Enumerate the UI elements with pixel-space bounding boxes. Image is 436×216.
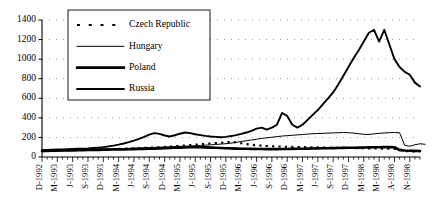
- x-axis-tick-label: M-1994: [111, 163, 121, 191]
- x-axis-tick-label: S-1997: [325, 163, 335, 189]
- x-axis-tick-label: M-1998: [356, 164, 366, 192]
- x-axis-tick-label: M-1996: [233, 163, 243, 191]
- x-axis-tick-label: D-1992: [34, 164, 44, 190]
- legend-label-russia: Russia: [129, 82, 155, 93]
- legend-label-czech-republic: Czech Republic: [129, 18, 190, 29]
- x-axis-tick-label: M-1995: [172, 164, 182, 192]
- line-chart: 0200400600800100012001400D-1992M-1993J-1…: [0, 0, 436, 216]
- x-axis-tick-label: S-1995: [203, 164, 213, 189]
- y-axis-tick-label: 1400: [17, 14, 36, 24]
- legend-label-poland: Poland: [129, 61, 156, 72]
- x-axis-tick-label: D-1995: [218, 164, 228, 190]
- x-axis-tick-label: S-1994: [141, 163, 151, 189]
- x-axis-tick-label: J-1996: [249, 163, 259, 187]
- y-axis-tick-label: 0: [31, 151, 36, 161]
- x-axis-tick-label: J-1995: [187, 164, 197, 187]
- x-axis-tick-label: D-1993: [95, 164, 105, 190]
- x-axis-tick-label: A-1998: [386, 164, 396, 190]
- x-axis-tick-label: D-1994: [157, 163, 167, 190]
- y-axis-tick-label: 1200: [17, 34, 36, 44]
- x-axis-tick-label: J-1993: [65, 164, 75, 187]
- x-axis-tick-label: S-1993: [80, 164, 90, 189]
- x-axis-tick-label: J-1994: [126, 163, 136, 187]
- legend-label-hungary: Hungary: [129, 40, 163, 51]
- x-axis-tick-label: D-1997: [340, 163, 350, 190]
- x-axis-tick-label: J-1997: [310, 163, 320, 187]
- x-axis-tick-label: M-1993: [49, 164, 59, 192]
- y-axis-tick-label: 1000: [17, 53, 36, 63]
- x-axis-tick-label: D-1996: [279, 163, 289, 190]
- x-axis-tick-label: N-1998: [402, 164, 412, 190]
- chart-container: 0200400600800100012001400D-1992M-1993J-1…: [0, 0, 436, 216]
- y-axis-tick-label: 200: [22, 132, 37, 142]
- x-axis-tick-label: S-1996: [264, 163, 274, 189]
- y-axis-tick-label: 600: [22, 92, 37, 102]
- y-axis-tick-label: 400: [22, 112, 37, 122]
- x-axis-tick-label: M-1998: [371, 164, 381, 192]
- y-axis-tick-label: 800: [22, 73, 37, 83]
- x-axis-tick-label: M-1997: [295, 163, 305, 191]
